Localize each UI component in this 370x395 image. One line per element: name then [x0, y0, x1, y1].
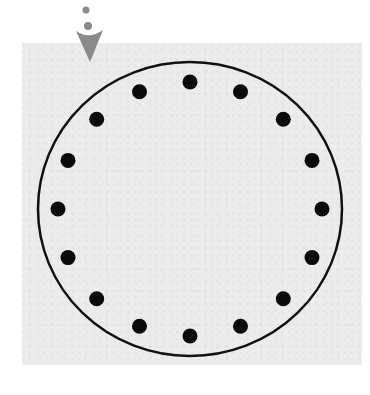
dot-ring	[51, 75, 330, 344]
dot-7	[276, 291, 291, 306]
dot-15	[89, 112, 104, 127]
dot-12	[61, 250, 76, 265]
dot-16	[132, 84, 147, 99]
dot-3	[276, 112, 291, 127]
marker-dot-top	[83, 7, 90, 14]
dot-4	[305, 153, 320, 168]
marker-arrowhead	[76, 30, 103, 62]
dot-10	[132, 319, 147, 334]
dot-13	[51, 202, 66, 217]
dot-11	[89, 291, 104, 306]
dot-1	[183, 75, 198, 90]
dot-8	[233, 319, 248, 334]
down-arrow-with-dots-icon	[76, 7, 103, 63]
dot-6	[305, 250, 320, 265]
dot-9	[183, 329, 198, 344]
outer-circle	[38, 62, 342, 356]
dot-5	[315, 202, 330, 217]
dot-14	[61, 153, 76, 168]
dot-2	[233, 84, 248, 99]
marker-dot-middle	[84, 22, 92, 30]
dot-circle-diagram	[0, 0, 370, 395]
